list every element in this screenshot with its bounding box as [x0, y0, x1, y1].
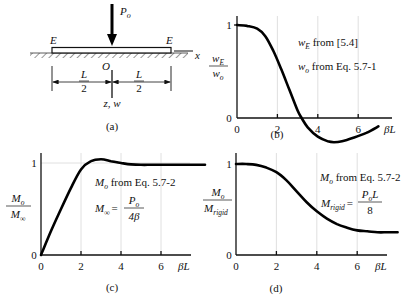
panel-c-grid: [81, 153, 161, 255]
svg-text:4: 4: [315, 123, 321, 135]
svg-text:Po: Po: [128, 194, 140, 209]
panel-d-grid: [276, 153, 357, 255]
svg-text:1: 1: [31, 157, 37, 169]
x-axis-label: x: [194, 49, 200, 61]
panel-c-note-1: Mo from Eq. 5.7-2: [94, 176, 175, 191]
panel-c-ylabel: Mo M∞: [6, 192, 31, 223]
panel-d-note-2: Mrigid= PoL 8: [320, 188, 382, 216]
z-axis-label: z, w: [102, 97, 121, 109]
svg-text:1: 1: [226, 19, 232, 31]
svg-text:Mrigid: Mrigid: [203, 202, 228, 217]
svg-text:L: L: [80, 68, 87, 80]
svg-text:0: 0: [233, 260, 239, 272]
svg-text:0: 0: [38, 260, 44, 272]
svg-text:8: 8: [367, 204, 373, 216]
svg-text:0: 0: [226, 112, 232, 124]
beam-end-label-right: E: [165, 34, 173, 46]
beam-end-label-left: E: [49, 34, 57, 46]
svg-text:4: 4: [314, 260, 320, 272]
panel-c-xlabel: βL: [177, 260, 190, 272]
svg-text:2: 2: [274, 260, 280, 272]
svg-text:0: 0: [234, 123, 240, 135]
panel-d-x-ticks: 0246: [233, 251, 360, 272]
panel-b-note-1: wE from [5.4]: [298, 36, 358, 51]
svg-text:Mrigid=: Mrigid=: [320, 197, 353, 212]
origin-label: O: [102, 60, 110, 72]
beam: [52, 48, 171, 54]
panel-d-xlabel: βL: [374, 260, 387, 272]
half-span-left: L 2: [79, 68, 89, 94]
svg-text:M∞: M∞: [10, 208, 26, 223]
svg-text:6: 6: [354, 260, 360, 272]
svg-text:1: 1: [226, 158, 232, 170]
svg-text:PoL: PoL: [361, 188, 379, 203]
panel-d-chart: 1 0 0246 βL Mo Mrigid Mo from Eq. 5.7-2 …: [203, 153, 400, 295]
load-label: Po: [119, 5, 131, 20]
figure: Po E E x O L 2 L 2 z, w (a): [0, 0, 413, 305]
svg-text:4: 4: [118, 260, 124, 272]
svg-text:6: 6: [158, 260, 164, 272]
panel-a-diagram: Po E E x O L 2 L 2 z, w (a): [30, 4, 200, 133]
svg-text:M∞=: M∞=: [94, 202, 118, 217]
panel-b-caption: (b): [271, 128, 284, 141]
panel-c-x-ticks: 0246: [38, 251, 164, 272]
svg-text:wE: wE: [212, 52, 224, 67]
panel-a-caption: (a): [106, 120, 119, 133]
panel-d-ylabel: Mo Mrigid: [203, 186, 232, 217]
ground-hatch: [30, 53, 188, 58]
panel-c-curve: [41, 159, 205, 255]
panel-b-chart: 1 0 0246 βL wE wo wE from [5.4] wo from …: [209, 16, 396, 142]
svg-text:6: 6: [355, 123, 361, 135]
panel-c-note-2: M∞= Po 4β: [94, 194, 144, 222]
svg-text:Mo: Mo: [211, 186, 225, 201]
panel-c-caption: (c): [106, 281, 119, 294]
load-arrowhead-icon: [107, 34, 117, 46]
panel-b-note-2: wo from Eq. 5.7-1: [298, 60, 377, 75]
svg-text:4β: 4β: [129, 210, 141, 222]
panel-c-chart: 1 0 0246 βL Mo M∞ Mo from Eq. 5.7-2 M∞= …: [6, 153, 205, 294]
panel-d-note-1: Mo from Eq. 5.7-2: [319, 171, 400, 186]
panel-b-ylabel: wE wo: [209, 52, 228, 82]
panel-b-xlabel: βL: [383, 123, 396, 135]
svg-text:0: 0: [226, 249, 232, 261]
svg-text:2: 2: [78, 260, 84, 272]
panel-b-x-ticks: 0246: [234, 114, 361, 135]
svg-text:L: L: [135, 68, 142, 80]
panel-d-caption: (d): [270, 282, 283, 295]
half-span-right: L 2: [134, 68, 144, 94]
svg-text:0: 0: [31, 249, 37, 261]
svg-text:wo: wo: [212, 67, 223, 82]
svg-text:2: 2: [136, 82, 142, 94]
svg-text:Mo: Mo: [11, 192, 25, 207]
svg-text:2: 2: [81, 82, 87, 94]
